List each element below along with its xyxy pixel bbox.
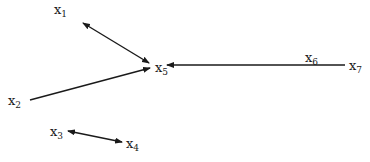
edge-label-x6-subscript: 6 — [312, 57, 318, 67]
node-x7-subscript: 7 — [356, 65, 362, 75]
node-x1: x1 — [54, 3, 67, 19]
node-x5: x5 — [155, 61, 168, 77]
node-x3-subscript: 3 — [57, 131, 63, 141]
edge-x1-x5-arrow — [83, 23, 149, 63]
node-x4: x4 — [126, 137, 139, 153]
node-x5-subscript: 5 — [162, 67, 168, 77]
node-x1-subscript: 1 — [61, 9, 67, 19]
node-x7: x7 — [349, 59, 362, 75]
node-x4-subscript: 4 — [133, 143, 139, 153]
edge-label-x6: x6 — [305, 51, 318, 67]
edge-x2-x5-arrow — [30, 68, 150, 100]
node-x3: x3 — [50, 125, 63, 141]
node-x2: x2 — [8, 94, 21, 110]
node-x2-subscript: 2 — [15, 100, 21, 110]
edge-x3-x4-arrow — [68, 131, 122, 142]
